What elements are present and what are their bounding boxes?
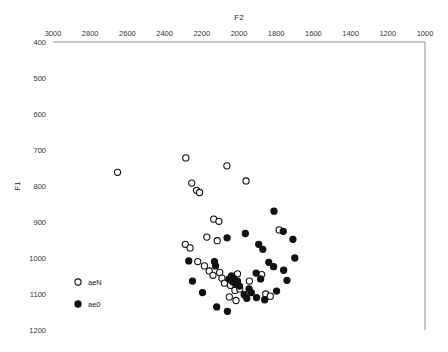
data-point-ae0 xyxy=(271,264,277,270)
data-point-aeN xyxy=(201,263,207,269)
y-axis-title: F1 xyxy=(13,181,22,191)
data-point-ae0 xyxy=(281,267,287,273)
x-tick-label: 1400 xyxy=(342,29,359,38)
data-point-aeN xyxy=(224,163,230,169)
data-point-aeN xyxy=(195,259,201,265)
data-point-ae0 xyxy=(262,297,268,303)
x-tick-label: 1200 xyxy=(379,29,396,38)
x-tick-label: 1800 xyxy=(268,29,285,38)
data-point-ae0 xyxy=(224,235,230,241)
y-tick-label: 500 xyxy=(33,74,46,83)
data-point-ae0 xyxy=(236,283,242,289)
data-point-ae0 xyxy=(253,270,259,276)
data-point-aeN xyxy=(214,238,220,244)
series-aeN-points xyxy=(114,155,282,304)
data-point-aeN xyxy=(183,155,189,161)
data-point-ae0 xyxy=(214,304,220,310)
data-point-aeN xyxy=(196,189,202,195)
data-point-ae0 xyxy=(242,230,248,236)
legend-label-ae0: ae0 xyxy=(88,300,101,309)
x-axis-tick-labels: 3000280026002400220020001800160014001200… xyxy=(45,29,434,38)
y-tick-label: 600 xyxy=(33,110,46,119)
data-point-ae0 xyxy=(292,255,298,261)
data-point-aeN xyxy=(246,278,252,284)
data-point-aeN xyxy=(187,245,193,251)
scatter-plot-figure: 3000280026002400220020001800160014001200… xyxy=(0,0,448,352)
data-point-aeN xyxy=(233,297,239,303)
data-point-ae0 xyxy=(189,278,195,284)
data-point-ae0 xyxy=(212,263,218,269)
y-tick-label: 900 xyxy=(33,218,46,227)
legend-marker-ae0 xyxy=(75,301,81,307)
x-tick-label: 1600 xyxy=(305,29,322,38)
y-tick-label: 1000 xyxy=(29,254,46,263)
data-point-ae0 xyxy=(290,236,296,242)
x-tick-label: 2800 xyxy=(82,29,99,38)
legend: aeNae0 xyxy=(75,278,102,309)
x-tick-label: 2200 xyxy=(193,29,210,38)
data-point-ae0 xyxy=(224,308,230,314)
formant-scatter-chart: 3000280026002400220020001800160014001200… xyxy=(0,0,448,352)
x-axis-title: F2 xyxy=(234,13,244,22)
y-tick-label: 1200 xyxy=(29,326,46,335)
x-tick-label: 2600 xyxy=(119,29,136,38)
series-ae0-points xyxy=(186,208,298,314)
data-point-aeN xyxy=(216,218,222,224)
data-point-aeN xyxy=(210,272,216,278)
data-point-aeN xyxy=(114,169,120,175)
data-point-aeN xyxy=(204,234,210,240)
y-tick-label: 800 xyxy=(33,182,46,191)
y-axis-tick-labels: 400500600700800900100011001200 xyxy=(29,38,46,335)
data-point-ae0 xyxy=(271,208,277,214)
data-point-ae0 xyxy=(253,295,259,301)
data-point-ae0 xyxy=(280,228,286,234)
data-point-aeN xyxy=(267,293,273,299)
data-point-ae0 xyxy=(257,276,263,282)
y-tick-label: 1100 xyxy=(30,290,46,299)
x-tick-label: 1000 xyxy=(417,29,434,38)
x-tick-label: 3000 xyxy=(45,29,62,38)
legend-marker-aeN xyxy=(75,279,81,285)
data-point-aeN xyxy=(243,178,249,184)
x-tick-label: 2400 xyxy=(156,29,173,38)
data-point-ae0 xyxy=(186,258,192,264)
legend-label-aeN: aeN xyxy=(88,278,102,287)
data-point-ae0 xyxy=(244,295,250,301)
data-point-ae0 xyxy=(199,289,205,295)
data-point-ae0 xyxy=(273,288,279,294)
y-tick-label: 400 xyxy=(33,38,46,47)
data-point-aeN xyxy=(226,294,232,300)
data-point-aeN xyxy=(189,180,195,186)
y-tick-label: 700 xyxy=(33,146,46,155)
x-tick-label: 2000 xyxy=(231,29,248,38)
data-point-ae0 xyxy=(248,289,254,295)
data-point-ae0 xyxy=(284,277,290,283)
data-point-ae0 xyxy=(260,246,266,252)
